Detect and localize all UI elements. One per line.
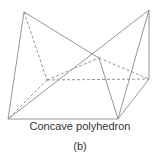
edge-C-BR: [99, 58, 118, 119]
figure-label: (b): [0, 140, 160, 152]
figure-caption: Concave polyhedron: [0, 120, 160, 132]
edge-TL-BL: [8, 12, 24, 119]
hidden-edge-IN-RM: [47, 79, 149, 80]
hidden-edge-C-RM: [99, 58, 149, 79]
hidden-edge-TL-IN: [24, 12, 47, 80]
edge-TL-C: [24, 12, 99, 58]
concave-polyhedron-diagram: [0, 0, 160, 125]
hidden-edge-IN-BL: [8, 80, 47, 119]
edge-RM-BR: [118, 79, 149, 119]
edge-TR-BR: [118, 10, 149, 119]
